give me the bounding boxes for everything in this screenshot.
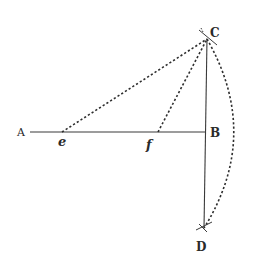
label-A: A xyxy=(16,126,26,139)
line-eC xyxy=(62,39,207,132)
label-e: e xyxy=(58,134,66,149)
label-D: D xyxy=(196,240,206,254)
label-f: f xyxy=(145,137,154,152)
label-C: C xyxy=(210,26,220,40)
line-CD xyxy=(204,39,207,228)
label-B: B xyxy=(210,126,220,140)
line-fC xyxy=(158,39,207,132)
geometry-diagram: A e f B C D xyxy=(0,0,258,263)
